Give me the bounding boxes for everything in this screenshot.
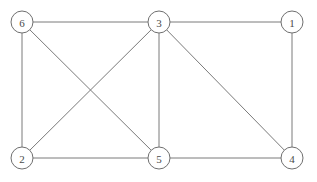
graph-node-2[interactable]: 2 [11,147,33,169]
edge-layer [22,22,292,158]
graph-node-3[interactable]: 3 [148,11,170,33]
graph-node-label-5: 5 [156,153,162,165]
graph-diagram-canvas: 631254 [0,0,317,182]
graph-diagram: 631254 [0,0,317,182]
node-layer: 631254 [11,11,303,169]
graph-node-1[interactable]: 1 [281,11,303,33]
graph-node-6[interactable]: 6 [11,11,33,33]
graph-node-label-4: 4 [289,153,295,165]
graph-node-4[interactable]: 4 [281,147,303,169]
graph-node-label-1: 1 [289,17,295,29]
graph-node-label-3: 3 [156,17,162,29]
graph-node-5[interactable]: 5 [148,147,170,169]
graph-edge-3-4 [167,30,285,150]
graph-node-label-6: 6 [19,17,25,29]
graph-node-label-2: 2 [19,153,25,165]
